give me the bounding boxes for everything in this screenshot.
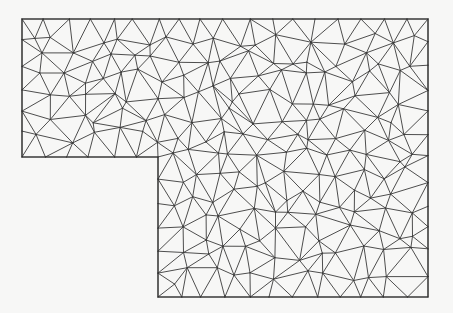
mesh-edge <box>239 155 256 172</box>
mesh-edge <box>336 130 365 138</box>
mesh-edge <box>213 61 220 86</box>
mesh-edge <box>121 72 126 102</box>
mesh-edge <box>336 66 353 81</box>
mesh-figure: L-shaped domain triangular mesh <box>0 0 453 313</box>
mesh-edge <box>173 138 178 153</box>
mesh-edge <box>241 19 251 46</box>
mesh-edge <box>22 134 36 157</box>
mesh-edge <box>313 72 325 104</box>
mesh-edge <box>193 197 206 215</box>
mesh-edge <box>86 94 116 116</box>
mesh-edge <box>239 172 257 186</box>
mesh-edge <box>120 108 122 127</box>
mesh-edge <box>220 61 231 78</box>
mesh-edge <box>243 134 268 140</box>
mesh-edge <box>206 202 213 215</box>
mesh-edge <box>158 204 174 206</box>
mesh-edge <box>384 250 387 277</box>
mesh-edge <box>93 108 122 123</box>
mesh-edge <box>217 268 225 297</box>
mesh-edge <box>412 206 428 213</box>
mesh-edge <box>69 19 73 53</box>
mesh-edge <box>162 82 184 98</box>
mesh-edge <box>253 89 270 124</box>
mesh-edge <box>50 96 69 119</box>
mesh-edge <box>355 93 389 96</box>
mesh-edge <box>111 39 117 54</box>
mesh-edge <box>158 179 174 206</box>
mesh-edge <box>340 190 355 207</box>
mesh-edge <box>183 175 196 183</box>
mesh-edge <box>192 123 206 142</box>
mesh-edge <box>319 175 320 203</box>
mesh-edge <box>265 171 284 182</box>
mesh-edge <box>104 43 111 54</box>
mesh-edge <box>400 213 412 239</box>
mesh-edge <box>316 207 340 214</box>
mesh-edge <box>36 134 73 143</box>
mesh-edge <box>158 253 184 274</box>
mesh-edge <box>166 37 179 62</box>
mesh-edge <box>22 66 40 73</box>
mesh-edge <box>250 19 275 35</box>
mesh-edge <box>393 43 409 66</box>
mesh-edge <box>268 122 283 140</box>
mesh-edge <box>209 254 218 268</box>
mesh-edge <box>243 124 253 134</box>
mesh-edge <box>213 19 222 38</box>
mesh-edge <box>111 54 135 55</box>
mesh-edge <box>22 53 42 67</box>
mesh-edge <box>241 45 256 46</box>
mesh-edge <box>355 71 370 96</box>
mesh-edge <box>405 167 428 183</box>
mesh-edge <box>389 123 392 141</box>
mesh-edge <box>275 228 276 258</box>
mesh-edge <box>22 95 50 111</box>
mesh-edge <box>257 155 258 186</box>
mesh-edge <box>370 71 390 93</box>
mesh-edge <box>206 119 222 142</box>
mesh-edge <box>308 271 318 297</box>
mesh-edge <box>158 227 183 251</box>
mesh-edge <box>365 130 367 154</box>
mesh-edge <box>213 78 230 86</box>
mesh-edge <box>188 142 206 150</box>
mesh-edge <box>22 38 35 39</box>
mesh-edge <box>345 19 361 44</box>
mesh-edge <box>303 191 320 202</box>
mesh-edge <box>336 139 350 151</box>
mesh-edge <box>306 62 307 73</box>
mesh-edge <box>219 132 225 153</box>
mesh-edge <box>228 154 240 172</box>
mesh-edge <box>146 121 158 143</box>
mesh-edge <box>313 104 328 105</box>
mesh-edge <box>229 102 232 108</box>
mesh-edge <box>36 120 50 135</box>
mesh-edge <box>282 120 306 121</box>
mesh-edge <box>311 42 336 66</box>
mesh-edge <box>316 202 320 214</box>
mesh-edge <box>270 89 282 121</box>
mesh-edge <box>218 216 223 246</box>
mesh-edge <box>206 216 218 240</box>
mesh-edge <box>311 42 325 72</box>
mesh-edge <box>364 246 369 278</box>
mesh-edge <box>276 19 293 35</box>
mesh-edge <box>369 277 387 278</box>
mesh-edge <box>255 45 273 63</box>
mesh-edge <box>384 179 390 194</box>
mesh-edge <box>103 72 121 78</box>
mesh-edge <box>184 253 188 268</box>
mesh-edge <box>35 37 50 38</box>
mesh-edge <box>308 119 320 140</box>
mesh-edge <box>234 275 250 297</box>
mesh-edge <box>287 191 303 201</box>
mesh-edge <box>187 254 209 268</box>
mesh-edge <box>192 119 222 123</box>
mesh-edge <box>120 121 146 128</box>
mesh-edge <box>364 231 379 246</box>
mesh-edge <box>174 206 183 227</box>
mesh-edge <box>249 51 259 76</box>
mesh-edge <box>292 271 308 297</box>
mesh-edge <box>375 19 384 34</box>
